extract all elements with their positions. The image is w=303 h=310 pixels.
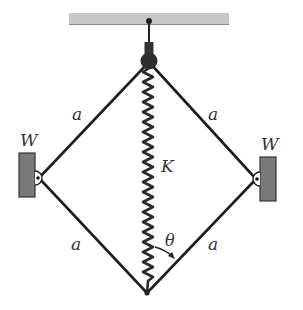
bar-lower-left (39, 178, 147, 293)
rhombus-spring-diagram: a a a a W W K θ (0, 0, 303, 310)
label-spring-k: K (160, 156, 175, 176)
hanger-bracket (145, 42, 154, 54)
bar-lower-right (147, 179, 256, 293)
bar-upper-left (39, 62, 149, 178)
label-theta: θ (165, 231, 175, 250)
top-joint (141, 53, 158, 70)
pivot-right-pin (255, 177, 259, 181)
weight-left (19, 153, 35, 197)
weight-right (260, 157, 276, 201)
label-a-lower-left: a (71, 234, 81, 254)
label-w-left: W (20, 130, 39, 150)
label-a-lower-right: a (208, 234, 218, 254)
pivot-left-pin (36, 176, 40, 180)
spring-k (143, 68, 153, 293)
label-a-upper-right: a (208, 104, 218, 124)
label-a-upper-left: a (72, 104, 82, 124)
label-w-right: W (261, 134, 280, 154)
